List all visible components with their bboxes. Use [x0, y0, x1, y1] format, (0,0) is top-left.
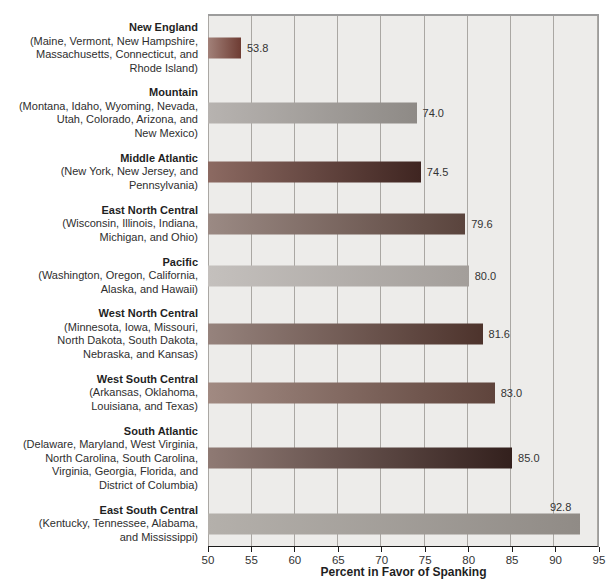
bar-middle-atlantic [208, 162, 421, 183]
region-states-line: Nebraska, and Kansas) [0, 348, 198, 362]
region-name-label: West South Central [0, 373, 198, 387]
region-label: Middle Atlantic(New York, New Jersey, an… [0, 152, 208, 193]
value-label: 80.0 [475, 270, 496, 282]
region-states-line: (Maine, Vermont, New Hampshire, [0, 35, 198, 49]
region-states-line: (Minnesota, Iowa, Missouri, [0, 321, 198, 335]
region-row: Pacific(Washington, Oregon, California,A… [0, 256, 599, 297]
bar-track: 74.5 [208, 152, 599, 193]
bar-pacific [208, 265, 469, 286]
region-states-line: Louisiana, and Texas) [0, 400, 198, 414]
axis-tick [294, 547, 295, 552]
bar-track: 81.6 [208, 307, 599, 361]
region-states-line: (New York, New Jersey, and [0, 165, 198, 179]
bar-track: 53.8 [208, 21, 599, 75]
region-states-line: District of Columbia) [0, 479, 198, 493]
value-label: 92.8 [550, 501, 571, 513]
region-row: East North Central(Wisconsin, Illinois, … [0, 204, 599, 245]
bar-new-england [208, 38, 241, 59]
region-states-line: North Carolina, South Carolina, [0, 452, 198, 466]
value-label: 85.0 [518, 452, 539, 464]
axis-tick [555, 547, 556, 552]
bar-track: 79.6 [208, 204, 599, 245]
region-name-label: Pacific [0, 256, 198, 270]
bar-west-north-central [208, 324, 483, 345]
region-row: West North Central(Minnesota, Iowa, Miss… [0, 307, 599, 361]
bar-east-south-central [208, 513, 580, 534]
region-name-label: New England [0, 21, 198, 35]
region-label: East North Central(Wisconsin, Illinois, … [0, 204, 208, 245]
bar-east-north-central [208, 213, 465, 234]
region-states-line: Alaska, and Hawaii) [0, 283, 198, 297]
value-label: 74.5 [427, 166, 448, 178]
region-label: Pacific(Washington, Oregon, California,A… [0, 256, 208, 297]
region-label: South Atlantic(Delaware, Maryland, West … [0, 425, 208, 493]
region-label: Mountain(Montana, Idaho, Wyoming, Nevada… [0, 86, 208, 140]
axis-tick [599, 547, 600, 552]
value-label: 81.6 [489, 328, 510, 340]
region-states-line: Virginia, Georgia, Florida, and [0, 465, 198, 479]
axis-tick [338, 547, 339, 552]
region-states-line: Rhode Island) [0, 62, 198, 76]
region-name-label: Middle Atlantic [0, 152, 198, 166]
region-states-line: (Washington, Oregon, California, [0, 269, 198, 283]
value-label: 79.6 [471, 218, 492, 230]
region-states-line: (Kentucky, Tennessee, Alabama, [0, 517, 198, 531]
axis-tick [381, 547, 382, 552]
region-states-line: (Montana, Idaho, Wyoming, Nevada, [0, 100, 198, 114]
x-axis-title: Percent in Favor of Spanking [208, 565, 599, 579]
region-states-line: Michigan, and Ohio) [0, 231, 198, 245]
region-states-line: (Delaware, Maryland, West Virginia, [0, 438, 198, 452]
value-label: 83.0 [501, 387, 522, 399]
region-row: West South Central(Arkansas, Oklahoma,Lo… [0, 373, 599, 414]
region-states-line: North Dakota, South Dakota, [0, 334, 198, 348]
region-name-label: East North Central [0, 204, 198, 218]
region-row: Middle Atlantic(New York, New Jersey, an… [0, 152, 599, 193]
region-states-line: New Mexico) [0, 127, 198, 141]
region-name-label: East South Central [0, 504, 198, 518]
region-states-line: Massachusetts, Connecticut, and [0, 48, 198, 62]
region-label: West North Central(Minnesota, Iowa, Miss… [0, 307, 208, 361]
region-states-line: Utah, Colorado, Arizona, and [0, 113, 198, 127]
bar-mountain [208, 103, 417, 124]
region-row: South Atlantic(Delaware, Maryland, West … [0, 425, 599, 493]
bar-track: 92.8 [208, 504, 599, 545]
axis-tick [468, 547, 469, 552]
axis-tick [425, 547, 426, 552]
bar-track: 85.0 [208, 425, 599, 493]
region-label: New England(Maine, Vermont, New Hampshir… [0, 21, 208, 75]
bar-track: 80.0 [208, 256, 599, 297]
axis-tick [251, 547, 252, 552]
region-name-label: West North Central [0, 307, 198, 321]
axis-tick [512, 547, 513, 552]
value-label: 53.8 [247, 42, 268, 54]
bar-chart: New England(Maine, Vermont, New Hampshir… [0, 0, 614, 582]
bar-west-south-central [208, 383, 495, 404]
region-row: East South Central(Kentucky, Tennessee, … [0, 504, 599, 545]
axis-tick [208, 547, 209, 552]
rows: New England(Maine, Vermont, New Hampshir… [0, 14, 599, 547]
region-row: Mountain(Montana, Idaho, Wyoming, Nevada… [0, 86, 599, 140]
region-row: New England(Maine, Vermont, New Hampshir… [0, 21, 599, 75]
region-states-line: and Mississippi) [0, 531, 198, 545]
bar-south-atlantic [208, 448, 512, 469]
region-states-line: (Wisconsin, Illinois, Indiana, [0, 217, 198, 231]
bar-track: 83.0 [208, 373, 599, 414]
region-label: East South Central(Kentucky, Tennessee, … [0, 504, 208, 545]
bar-track: 74.0 [208, 86, 599, 140]
region-name-label: Mountain [0, 86, 198, 100]
region-name-label: South Atlantic [0, 425, 198, 439]
cropped-caption-fragment [0, 0, 614, 8]
region-label: West South Central(Arkansas, Oklahoma,Lo… [0, 373, 208, 414]
value-label: 74.0 [423, 107, 444, 119]
region-states-line: Pennsylvania) [0, 179, 198, 193]
region-states-line: (Arkansas, Oklahoma, [0, 386, 198, 400]
